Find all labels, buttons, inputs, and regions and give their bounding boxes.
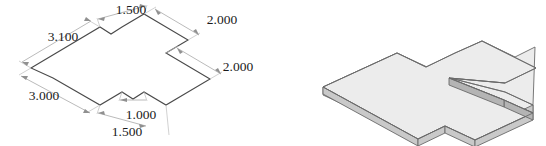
dimension-1000-group [119, 92, 147, 102]
screenshot-root: 3.100 1.500 2.000 [0, 0, 546, 146]
dimensioned-drawing-panel: 3.100 1.500 2.000 [0, 0, 290, 146]
dim-label-3100: 3.100 [48, 29, 79, 44]
dim-label-3000: 3.000 [29, 88, 60, 103]
drawing-svg: 3.100 1.500 2.000 [0, 0, 290, 146]
dim-label-1500-top: 1.500 [116, 2, 147, 17]
solid-svg [290, 0, 546, 146]
dim-label-1000: 1.000 [126, 107, 157, 122]
dim-label-2000-right: 2.000 [223, 59, 254, 74]
dim-label-1500-bottom: 1.500 [112, 124, 143, 139]
dimension-2000-upper-right-group [144, 7, 200, 40]
dim-label-2000-upper-right: 2.000 [207, 12, 238, 27]
solid-model-panel [290, 0, 546, 146]
dimension-2000-right-group [166, 46, 222, 79]
